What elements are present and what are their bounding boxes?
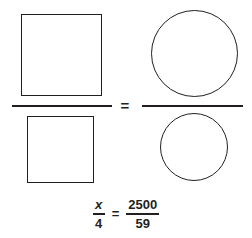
right-fraction-rule (126, 213, 159, 214)
math-proportion-diagram: = x 4 = 2500 59 (0, 0, 252, 238)
right-fraction-denominator: 59 (134, 216, 152, 231)
shape-equals-sign: = (117, 97, 133, 115)
left-fraction-denominator: 4 (93, 216, 104, 231)
large-square-shape (21, 14, 102, 96)
right-fraction-numerator: 2500 (126, 197, 159, 212)
numeric-left-fraction: x 4 (93, 197, 105, 231)
left-fraction-numerator: x (93, 197, 104, 212)
left-fraction-bar (12, 105, 112, 107)
small-circle-shape (160, 113, 228, 181)
right-fraction-bar (142, 105, 243, 107)
left-fraction-rule (93, 213, 105, 214)
numeric-equation: x 4 = 2500 59 (0, 192, 252, 236)
numeric-right-fraction: 2500 59 (126, 197, 159, 231)
small-square-shape (27, 116, 94, 183)
large-circle-shape (151, 10, 238, 97)
numeric-equals-sign: = (112, 206, 120, 222)
